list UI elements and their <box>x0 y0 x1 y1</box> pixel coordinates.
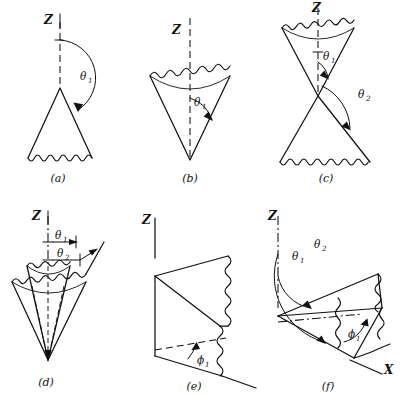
z-axis-label-e: Z <box>141 213 152 227</box>
z-axis-label-d: Z <box>31 209 42 223</box>
theta1-arrowhead-d <box>69 239 78 245</box>
panel-a: Z θ 1 (a) <box>0 0 134 198</box>
z-axis-label-f: Z <box>267 209 278 223</box>
plane-diagonal-e <box>155 276 220 326</box>
panel-caption-f: (f) <box>322 380 335 393</box>
theta1-subscript-b: 1 <box>202 102 207 111</box>
plane-right-wavy-upper-e <box>225 256 231 326</box>
theta1-subscript-a: 1 <box>88 76 93 85</box>
lower-cone-base-wavy-c <box>280 159 368 165</box>
theta2-arrowhead-f <box>316 336 326 344</box>
panel-d: Z θ 1 θ 2 (d) <box>0 198 134 396</box>
outer-cone-edges-d <box>12 282 86 360</box>
phi-reference-solid-e <box>222 376 256 388</box>
wedge-lower-edge-f <box>278 316 354 358</box>
panel-c: Z θ 1 θ 2 (c) <box>266 0 402 198</box>
panel-caption-a: (a) <box>50 172 65 185</box>
theta2-subscript-d: 2 <box>64 253 70 262</box>
x-axis-label-f: X <box>383 363 394 377</box>
cone-base-wavy-a <box>28 155 92 161</box>
theta2-label-f: θ <box>314 238 321 250</box>
panel-b: Z θ 1 (b) <box>134 0 268 198</box>
panel-e: Z ϕ 1 (e) <box>134 198 268 396</box>
theta1-label-f: θ <box>292 250 299 262</box>
phi1-label-e: ϕ <box>197 354 204 366</box>
x-axis-line-f <box>350 360 382 374</box>
theta2-label-c: θ <box>358 88 365 100</box>
figure-spherical-coordinate-surfaces: Z θ 1 (a) Z θ 1 (b) <box>0 0 402 396</box>
inner-cone-rim-front-d <box>27 266 70 274</box>
z-axis-label-c: Z <box>311 1 322 15</box>
theta1-subscript-c: 1 <box>331 56 336 65</box>
theta2-subscript-f: 2 <box>321 244 327 253</box>
phi1-subscript-e: 1 <box>205 360 210 369</box>
panel-caption-b: (b) <box>182 172 198 185</box>
theta1-arrowhead-b <box>204 112 213 122</box>
inner-cone-edges-d <box>27 266 70 360</box>
outer-cone-reference-line-d <box>86 242 104 274</box>
panel-caption-e: (e) <box>186 380 201 393</box>
theta1-subscript-f: 1 <box>300 256 305 265</box>
phi-reference-dashed-e <box>155 338 226 350</box>
theta2-arc-f <box>274 254 324 342</box>
wedge-wavy-inner-f <box>336 298 341 348</box>
theta1-subscript-d: 1 <box>63 235 68 244</box>
theta1-label-b: θ <box>194 96 201 108</box>
theta1-label-a: θ <box>80 70 87 82</box>
theta1-label-d: θ <box>55 229 62 241</box>
panel-f: Z X θ 1 <box>266 198 402 396</box>
phi1-subscript-f: 1 <box>356 334 361 343</box>
phi1-label-f: ϕ <box>348 328 355 340</box>
plane-right-wavy-lower-e <box>217 326 223 376</box>
theta1-label-c: θ <box>323 50 330 62</box>
wedge-wavy-right-lower-f <box>378 308 385 339</box>
wedge-wavy-bottom-f <box>354 344 390 358</box>
phi1-arrowhead-f <box>360 319 368 327</box>
cone-slant-edges-a <box>28 88 92 158</box>
panel-caption-d: (d) <box>38 376 54 389</box>
theta2-subscript-c: 2 <box>365 94 371 103</box>
plane-top-edge-e <box>155 256 228 276</box>
inner-cone-rim-wavy-d <box>27 260 70 267</box>
panel-caption-c: (c) <box>319 172 334 185</box>
z-axis-label-b: Z <box>171 23 182 37</box>
theta2-label-d: θ <box>57 247 64 259</box>
z-axis-label-a: Z <box>43 13 54 27</box>
lower-cone-edges-c <box>280 96 370 162</box>
